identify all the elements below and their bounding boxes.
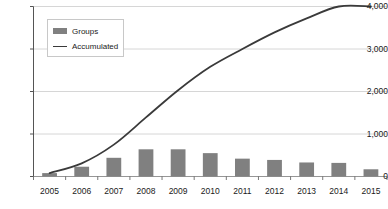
legend-line-swatch-icon (53, 46, 67, 47)
y-tick-label-4000: 4,000 (358, 2, 388, 11)
x-tick-label-2009: 2009 (162, 186, 194, 196)
x-tick-label-2014: 2014 (323, 186, 355, 196)
bar-2014 (331, 163, 346, 177)
bar-2011 (235, 159, 250, 177)
chart-legend: Groups Accumulated (47, 19, 124, 57)
legend-bar-swatch-icon (53, 28, 67, 34)
x-tick-label-2006: 2006 (66, 186, 98, 196)
y-tick-label-2000: 2,000 (358, 87, 388, 96)
bar-2008 (139, 149, 154, 176)
bar-2007 (106, 158, 121, 177)
bar-2013 (299, 162, 314, 176)
bar-2012 (267, 160, 282, 177)
legend-label-groups: Groups (72, 27, 98, 36)
x-tick-label-2013: 2013 (291, 186, 323, 196)
y-tick-label-0: 0 (358, 172, 388, 181)
x-tick-label-2010: 2010 (194, 186, 226, 196)
x-tick-label-2011: 2011 (226, 186, 258, 196)
legend-item-accumulated: Accumulated (53, 40, 118, 52)
bar-series-groups (42, 149, 378, 176)
y-tick-label-1000: 1,000 (358, 130, 388, 139)
legend-label-accumulated: Accumulated (72, 42, 118, 51)
x-tick-label-2012: 2012 (258, 186, 290, 196)
x-tick-label-2005: 2005 (34, 186, 66, 196)
x-tick-label-2008: 2008 (130, 186, 162, 196)
bar-2010 (203, 153, 218, 176)
chart-container: 01,0002,0003,0004,000 200520062007200820… (0, 0, 388, 209)
bar-2006 (74, 167, 89, 177)
x-tick-label-2007: 2007 (98, 186, 130, 196)
x-tick-label-2015: 2015 (355, 186, 387, 196)
bar-2009 (171, 149, 186, 176)
legend-item-groups: Groups (53, 25, 98, 37)
y-tick-label-3000: 3,000 (358, 45, 388, 54)
